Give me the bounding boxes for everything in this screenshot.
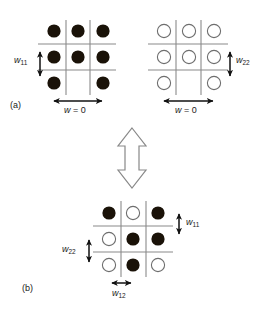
label-w22-panel-b: w22 <box>62 245 76 254</box>
site-filled <box>126 258 139 271</box>
label-w11-panel-a: w11 <box>14 56 27 65</box>
panel-tag-b: (b) <box>22 283 33 293</box>
site-open <box>182 50 195 63</box>
site-filled <box>151 206 164 219</box>
site-filled <box>47 24 60 37</box>
site-filled <box>71 24 84 37</box>
panel-tag-a: (a) <box>10 100 21 110</box>
site-open <box>157 76 170 89</box>
site-open <box>157 50 170 63</box>
site-filled <box>71 50 84 63</box>
figure-container: w11 w22 w = 0 w = 0 (a) w11 w22 w12 (b) <box>0 0 265 310</box>
label-w11-panel-b: w11 <box>186 218 199 227</box>
label-w22-panel-a: w22 <box>236 56 250 65</box>
vertical-double-arrow-icon <box>118 128 146 188</box>
site-filled <box>96 76 109 89</box>
site-filled <box>102 206 115 219</box>
grid-a-right <box>148 20 230 101</box>
site-open <box>182 24 195 37</box>
label-w-zero-left: w = 0 <box>64 106 86 115</box>
site-open <box>126 206 139 219</box>
site-open <box>207 24 220 37</box>
grid-b <box>89 201 179 283</box>
site-filled <box>96 24 109 37</box>
site-filled <box>96 50 109 63</box>
site-filled <box>151 232 164 245</box>
site-open <box>151 258 164 271</box>
diagram-canvas <box>0 0 265 310</box>
label-w-zero-right: w = 0 <box>175 106 197 115</box>
site-open <box>102 258 115 271</box>
grid-a-left <box>38 20 116 101</box>
site-open <box>207 50 220 63</box>
site-open <box>102 232 115 245</box>
site-open <box>207 76 220 89</box>
site-filled <box>47 50 60 63</box>
label-w12-panel-b: w12 <box>112 289 126 298</box>
site-filled <box>47 76 60 89</box>
site-filled <box>126 232 139 245</box>
site-open <box>157 24 170 37</box>
